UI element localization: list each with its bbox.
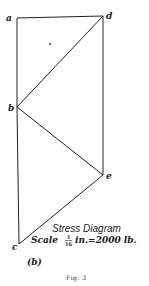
edge-b-e [17, 107, 103, 175]
point-label-a: a [6, 13, 12, 23]
edge-b-c [17, 107, 19, 244]
edge-b-d [17, 16, 103, 107]
point-label-e: e [106, 171, 112, 181]
diagram-title: Stress Diagram [52, 223, 121, 234]
edge-a-d [17, 16, 103, 18]
point-label-d: d [106, 11, 113, 21]
point-label-c: c [12, 242, 18, 252]
stray-dot [49, 43, 51, 45]
figure-caption: Fig. 3 [66, 274, 87, 282]
sublabel: (b) [27, 257, 42, 267]
scale-fraction-numerator: 1 [67, 234, 70, 240]
stress-diagram: a d b e c Stress Diagram Scale 1 16 in.=… [0, 0, 149, 286]
scale-suffix: in.=2000 lb. [75, 235, 137, 245]
scale-prefix: Scale [31, 235, 58, 245]
scale-fraction-denominator: 16 [65, 241, 72, 247]
point-label-b: b [8, 103, 14, 113]
